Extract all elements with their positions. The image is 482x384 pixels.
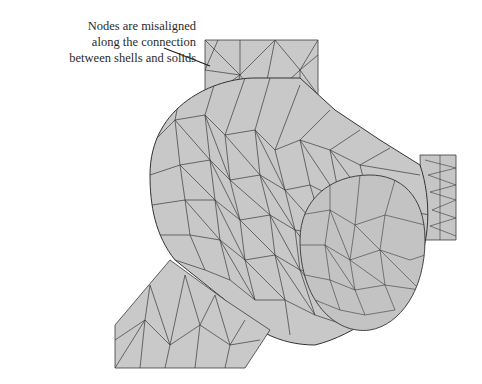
annotation-line-3: between shells and solids	[0, 50, 196, 66]
mesh-figure: Nodes are misaligned along the connectio…	[0, 0, 482, 384]
annotation-line-2: along the connection	[0, 34, 196, 50]
annotation-text: Nodes are misaligned along the connectio…	[0, 18, 196, 66]
annotation-line-1: Nodes are misaligned	[0, 18, 196, 34]
